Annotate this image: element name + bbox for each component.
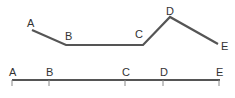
axis-label-b: B: [46, 66, 53, 78]
axis-point-labels: ABCDE: [9, 66, 223, 78]
path-label-d: D: [166, 5, 174, 17]
path-label-a: A: [27, 17, 35, 29]
path-projection-diagram: ABCDE ABCDE: [0, 0, 235, 98]
path-label-c: C: [135, 28, 143, 40]
path-label-e: E: [221, 40, 228, 52]
polyline-path: [32, 17, 218, 45]
path-label-b: B: [65, 30, 72, 42]
axis-label-a: A: [9, 66, 17, 78]
axis-label-d: D: [160, 66, 168, 78]
axis-label-e: E: [216, 66, 223, 78]
axis-label-c: C: [122, 66, 130, 78]
